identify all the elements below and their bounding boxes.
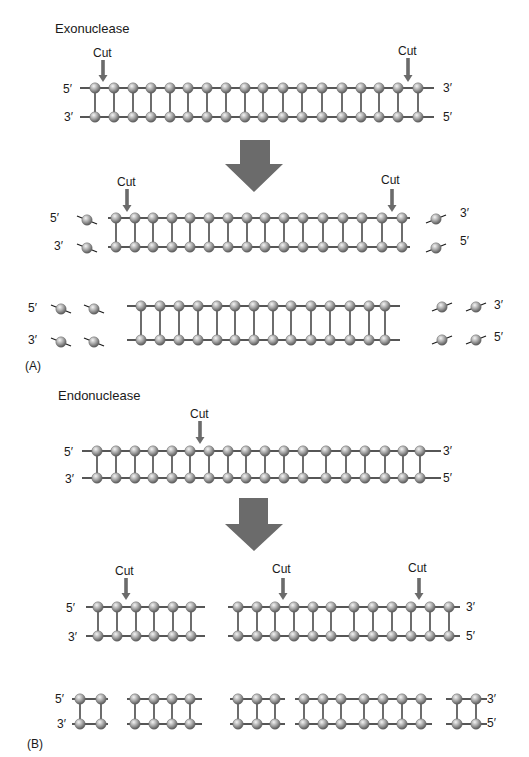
nucleotide-bead <box>298 242 308 252</box>
nucleotide-bead <box>471 719 481 729</box>
nucleotide-bead <box>111 242 121 252</box>
nucleotide-bead <box>377 242 387 252</box>
dna-fragments-step2 <box>72 694 487 729</box>
nuclease-diagram: Exonuclease Cut Cut 5′ 3′ 3′ 5′ Cut Cut … <box>0 0 529 757</box>
cut-arrowhead-icon <box>415 593 424 600</box>
nucleotide-bead <box>471 694 481 704</box>
nucleotide-bead <box>249 301 259 311</box>
nucleotide-bead <box>252 631 262 641</box>
nucleotide-bead <box>89 337 99 347</box>
nucleotide-bead <box>337 83 347 93</box>
nucleotide-bead <box>299 694 309 704</box>
nucleotide-bead <box>345 335 355 345</box>
nucleotide-bead <box>233 694 243 704</box>
nucleotide-bead <box>130 473 140 483</box>
nucleotide-bead <box>82 215 92 225</box>
cut-arrowhead-icon <box>388 205 397 212</box>
nucleotide-bead <box>289 631 299 641</box>
nucleotide-bead <box>168 631 178 641</box>
cut-label: Cut <box>398 44 417 58</box>
nucleotide-bead <box>416 719 426 729</box>
nucleotide-bead <box>130 213 140 223</box>
nucleotide-bead <box>279 446 289 456</box>
cut-label: Cut <box>381 173 400 187</box>
nucleotide-bead <box>270 719 280 729</box>
nucleotide-bead <box>270 694 280 704</box>
five-prime-label: 5′ <box>443 110 453 124</box>
nucleotide-bead <box>165 112 175 122</box>
nucleotide-bead <box>356 83 366 93</box>
nucleotide-bead <box>148 242 158 252</box>
nucleotide-bead <box>223 242 233 252</box>
nucleotide-bead <box>397 213 407 223</box>
nucleotide-bead <box>240 83 250 93</box>
nucleotide-bead <box>387 602 397 612</box>
nucleotide-bead <box>186 602 196 612</box>
cut-arrow-icon <box>124 578 128 594</box>
three-prime-label: 3′ <box>443 444 453 458</box>
nucleotide-bead <box>241 473 251 483</box>
nucleotide-bead <box>149 602 159 612</box>
cut-label: Cut <box>408 561 427 575</box>
nucleotide-bead <box>357 213 367 223</box>
three-prime-label: 3′ <box>466 600 476 614</box>
nucleotide-bead <box>321 446 331 456</box>
nucleotide-bead <box>437 335 447 345</box>
nucleotide-bead <box>413 112 423 122</box>
dna-duplex-intact <box>80 58 434 122</box>
nucleotide-bead <box>306 335 316 345</box>
nucleotide-bead <box>326 631 336 641</box>
nucleotide-bead <box>397 719 407 729</box>
process-arrow-icon <box>225 498 283 551</box>
nucleotide-bead <box>364 335 374 345</box>
nucleotide-bead <box>431 243 441 253</box>
nucleotide-bead <box>111 473 121 483</box>
nucleotide-bead <box>146 112 156 122</box>
process-arrow-icon <box>225 140 283 192</box>
nucleotide-bead <box>444 631 454 641</box>
nucleotide-bead <box>317 83 327 93</box>
nucleotide-bead <box>148 473 158 483</box>
cut-arrow-icon <box>101 60 105 76</box>
nucleotide-bead <box>268 301 278 311</box>
nucleotide-bead <box>268 335 278 345</box>
nucleotide-bead <box>260 446 270 456</box>
cut-arrowhead-icon <box>123 205 132 212</box>
nucleotide-bead <box>174 335 184 345</box>
nucleotide-bead <box>111 446 121 456</box>
nucleotide-bead <box>368 602 378 612</box>
nucleotide-bead <box>109 83 119 93</box>
nucleotide-bead <box>183 83 193 93</box>
three-prime-label: 3′ <box>64 110 74 124</box>
nucleotide-bead <box>185 719 195 729</box>
nucleotide-bead <box>356 112 366 122</box>
nucleotide-bead <box>185 242 195 252</box>
nucleotide-bead <box>136 301 146 311</box>
nucleotide-bead <box>242 242 252 252</box>
nucleotide-bead <box>380 335 390 345</box>
nucleotide-bead <box>109 112 119 122</box>
nucleotide-bead <box>393 112 403 122</box>
cut-arrow-icon <box>125 189 129 206</box>
five-prime-label: 5′ <box>443 471 453 485</box>
nucleotide-bead <box>230 335 240 345</box>
nucleotide-bead <box>270 602 280 612</box>
nucleotide-bead <box>326 602 336 612</box>
nucleotide-bead <box>338 242 348 252</box>
nucleotide-bead <box>167 694 177 704</box>
three-prime-label: 3′ <box>443 81 453 95</box>
nucleotide-bead <box>56 304 66 314</box>
nucleotide-bead <box>212 301 222 311</box>
cut-label: Cut <box>115 564 134 578</box>
nucleotide-bead <box>431 214 441 224</box>
nucleotide-bead <box>406 631 416 641</box>
dna-duplex-intact <box>82 421 441 483</box>
nucleotide-bead <box>186 631 196 641</box>
five-prime-label: 5′ <box>63 82 73 96</box>
nucleotide-bead <box>221 83 231 93</box>
nucleotide-bead <box>318 213 328 223</box>
nucleotide-bead <box>415 473 425 483</box>
nucleotide-bead <box>75 694 85 704</box>
nucleotide-bead <box>289 602 299 612</box>
nucleotide-bead <box>299 719 309 729</box>
